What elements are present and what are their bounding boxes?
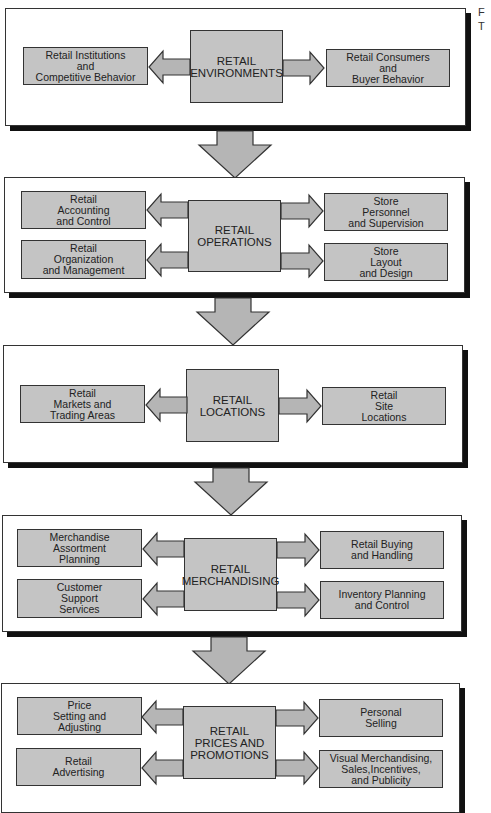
arrow-right-icon <box>283 51 325 85</box>
arrow-left-icon <box>146 193 188 227</box>
box-retail-advertising: Retail Advertising <box>16 748 141 786</box>
box-retail-institutions: Retail Institutions and Competitive Beha… <box>23 47 148 85</box>
box-merchandise-assortment: Merchandise Assortment Planning <box>17 529 142 567</box>
box-personal-selling: Personal Selling <box>319 699 443 737</box>
box-inventory-planning: Inventory Planning and Control <box>320 581 444 619</box>
corner-text-1: F <box>478 6 485 18</box>
arrow-left-icon <box>148 50 190 84</box>
flow-arrow-down-icon <box>196 298 270 346</box>
box-retail-markets: Retail Markets and Trading Areas <box>20 385 145 423</box>
box-retail-organization: Retail Organization and Management <box>21 240 146 279</box>
box-retail-site-locations: Retail Site Locations <box>322 387 446 425</box>
box-retail-consumers: Retail Consumers and Buyer Behavior <box>326 49 450 87</box>
arrow-right-icon <box>277 583 320 617</box>
center-box-retail-locations: RETAIL LOCATIONS <box>186 369 279 442</box>
arrow-left-icon <box>141 700 183 734</box>
box-store-layout: Store Layout and Design <box>324 243 448 281</box>
arrow-left-icon <box>145 388 187 422</box>
center-box-retail-operations: RETAIL OPERATIONS <box>188 200 281 272</box>
flow-arrow-down-icon <box>194 468 268 516</box>
corner-text-2: T <box>478 20 485 32</box>
center-box-retail-merchandising: RETAIL MERCHANDISING <box>184 538 277 611</box>
arrow-right-icon <box>276 751 319 785</box>
arrow-left-icon <box>146 243 188 277</box>
box-retail-buying: Retail Buying and Handling <box>320 531 444 569</box>
arrow-right-icon <box>279 389 322 423</box>
arrow-left-icon <box>142 582 184 616</box>
box-retail-accounting: Retail Accounting and Control <box>21 191 146 229</box>
box-visual-merchandising: Visual Merchandising, Sales,Incentives, … <box>319 750 443 788</box>
arrow-right-icon <box>276 701 319 735</box>
box-store-personnel: Store Personnel and Supervision <box>324 193 448 231</box>
arrow-right-icon <box>281 244 324 278</box>
box-customer-support: Customer Support Services <box>17 579 142 618</box>
arrow-left-icon <box>142 532 184 566</box>
flow-arrow-down-icon <box>192 637 266 685</box>
box-price-setting: Price Setting and Adjusting <box>17 697 142 735</box>
arrow-left-icon <box>141 751 183 785</box>
arrow-right-icon <box>281 194 324 228</box>
flow-arrow-down-icon <box>198 131 272 179</box>
center-box-retail-prices-promotions: RETAIL PRICES AND PROMOTIONS <box>183 706 276 779</box>
arrow-right-icon <box>277 533 320 567</box>
center-box-retail-environments: RETAIL ENVIRONMENTS <box>190 30 283 103</box>
